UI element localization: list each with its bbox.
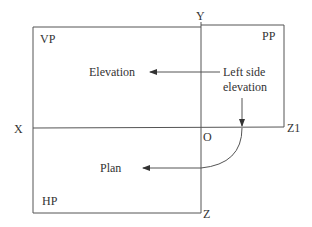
plan-label: Plan: [100, 161, 121, 175]
y-axis-label: Y: [196, 9, 205, 23]
hp-label: HP: [42, 194, 58, 208]
left-side-elevation-label-line2: elevation: [223, 80, 267, 94]
x-axis-line: [33, 127, 284, 128]
z1-axis-label: Z1: [287, 121, 300, 135]
projection-diagram: VP PP HP Y X Z Z1 O Elevation Left side …: [0, 0, 312, 227]
z-axis-label: Z: [203, 207, 210, 221]
origin-label: O: [203, 130, 212, 144]
pp-label: PP: [262, 29, 276, 43]
elevation-label: Elevation: [89, 65, 135, 79]
left-side-elevation-label-line1: Left side: [223, 65, 265, 79]
x-axis-label: X: [14, 122, 23, 136]
vp-label: VP: [40, 32, 56, 46]
